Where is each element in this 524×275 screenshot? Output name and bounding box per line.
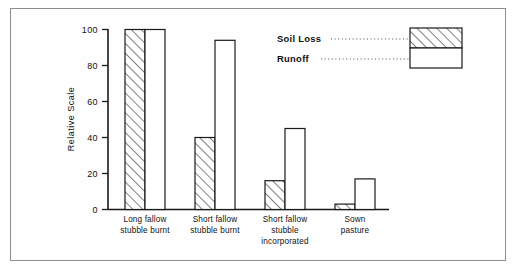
svg-text:Short fallow: Short fallow	[193, 215, 238, 224]
svg-text:stubble: stubble	[271, 226, 299, 235]
bar-group-short-fallow-stubble-burnt	[195, 40, 235, 209]
bar-runoff-short-fallow-stubble-incorporated	[285, 129, 305, 210]
bar-soil-loss-short-fallow-stubble-incorporated	[265, 181, 285, 210]
chart-plot-area: 0 20 40 60 80 100 Relative Scale	[11, 9, 507, 262]
legend-label-runoff: Runoff	[277, 53, 310, 64]
bar-group-short-fallow-stubble-incorporated	[265, 129, 305, 210]
svg-text:Sown: Sown	[344, 215, 365, 224]
svg-text:pasture: pasture	[341, 226, 370, 235]
x-axis-category-labels: Long fallow stubble burnt Short fallow s…	[120, 215, 369, 246]
y-tick-label-40: 40	[87, 133, 98, 143]
figure-frame: 0 20 40 60 80 100 Relative Scale	[10, 8, 506, 261]
legend-swatch-runoff	[410, 48, 462, 68]
chart-legend: Soil Loss Runoff	[277, 28, 462, 68]
legend-label-soil-loss: Soil Loss	[277, 33, 321, 44]
svg-text:stubble burnt: stubble burnt	[190, 226, 240, 235]
svg-text:Long fallow: Long fallow	[123, 215, 166, 224]
svg-text:stubble burnt: stubble burnt	[120, 226, 170, 235]
bar-runoff-long-fallow-stubble-burnt	[145, 30, 165, 210]
bar-runoff-sown-pasture	[355, 179, 375, 210]
bar-runoff-short-fallow-stubble-burnt	[215, 40, 235, 209]
y-tick-label-100: 100	[82, 25, 98, 35]
bar-soil-loss-short-fallow-stubble-burnt	[195, 138, 215, 210]
svg-text:incorporated: incorporated	[261, 237, 309, 246]
y-tick-label-60: 60	[87, 97, 98, 107]
legend-swatch-soil-loss	[410, 28, 462, 48]
category-label-sown-pasture: Sown pasture	[341, 215, 370, 235]
y-axis-title: Relative Scale	[66, 87, 76, 152]
category-label-short-fallow-stubble-incorporated: Short fallow stubble incorporated	[261, 215, 309, 246]
bar-group-sown-pasture	[335, 179, 375, 210]
category-label-short-fallow-stubble-burnt: Short fallow stubble burnt	[190, 215, 240, 235]
svg-text:Short fallow: Short fallow	[263, 215, 308, 224]
legend-item-soil-loss: Soil Loss	[277, 28, 462, 48]
y-axis-ticks	[102, 30, 108, 210]
bar-soil-loss-sown-pasture	[335, 204, 355, 209]
y-tick-label-80: 80	[87, 61, 98, 71]
bar-soil-loss-long-fallow-stubble-burnt	[125, 30, 145, 210]
category-label-long-fallow-stubble-burnt: Long fallow stubble burnt	[120, 215, 170, 235]
bar-chart-svg: 0 20 40 60 80 100 Relative Scale	[11, 9, 507, 262]
bar-group-long-fallow-stubble-burnt	[125, 30, 165, 210]
y-tick-label-0: 0	[93, 205, 98, 215]
y-tick-label-20: 20	[87, 169, 98, 179]
y-axis-tick-labels: 0 20 40 60 80 100	[82, 25, 98, 215]
legend-item-runoff: Runoff	[277, 48, 462, 68]
